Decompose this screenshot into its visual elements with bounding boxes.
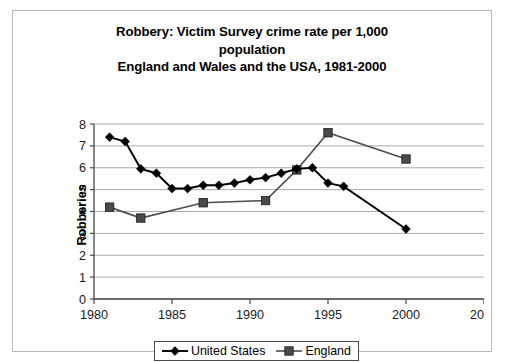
x-tick-label: 1995 [314, 308, 342, 322]
legend-item-england: England [276, 344, 350, 358]
legend-key-marker [285, 347, 293, 355]
x-tick-label: 1980 [80, 308, 108, 322]
x-tick-label: 1990 [236, 308, 264, 322]
data-point-marker [402, 155, 410, 163]
line-chart-svg: 012345678 198019851990199520002005 [64, 112, 484, 342]
chart-title-line-2: population [13, 41, 491, 59]
y-tick-label: 0 [79, 293, 86, 307]
y-axis-label: Robberies [75, 155, 89, 275]
data-point-marker [183, 184, 192, 193]
data-point-marker [230, 179, 239, 188]
chart-frame: Robbery: Victim Survey crime rate per 1,… [12, 10, 492, 352]
legend-item-united-states: United States [162, 344, 265, 358]
data-point-marker [261, 196, 269, 204]
data-point-marker [105, 133, 114, 142]
data-point-marker [136, 164, 145, 173]
plot-area: Robberies 012345678 19801985199019952000… [64, 112, 484, 312]
legend-square-icon [276, 345, 302, 357]
chart-legend: United StatesEngland [154, 341, 359, 361]
data-point-marker [199, 199, 207, 207]
data-point-marker [214, 181, 223, 190]
data-point-marker [199, 181, 208, 190]
x-tick-label: 2000 [392, 308, 420, 322]
data-point-marker [261, 173, 270, 182]
y-tick-label: 8 [79, 118, 86, 132]
data-point-marker [246, 175, 255, 184]
y-tick-label: 7 [79, 139, 86, 153]
legend-label: England [305, 344, 350, 358]
data-point-marker [137, 214, 145, 222]
chart-title-line-1: Robbery: Victim Survey crime rate per 1,… [13, 23, 491, 41]
series-united-states [105, 133, 410, 234]
data-point-marker [277, 169, 286, 178]
series-england [105, 129, 410, 223]
gridlines [94, 124, 484, 299]
legend-key-marker [171, 347, 180, 356]
x-tick-label: 1985 [158, 308, 186, 322]
x-tick-label: 2005 [470, 308, 484, 322]
data-point-marker [324, 129, 332, 137]
legend-diamond-icon [162, 345, 188, 357]
data-point-marker [121, 137, 130, 146]
x-tick-labels: 198019851990199520002005 [80, 308, 484, 322]
chart-title: Robbery: Victim Survey crime rate per 1,… [13, 23, 491, 76]
data-point-marker [105, 203, 113, 211]
chart-title-line-3: England and Wales and the USA, 1981-2000 [13, 58, 491, 76]
legend-label: United States [191, 344, 265, 358]
